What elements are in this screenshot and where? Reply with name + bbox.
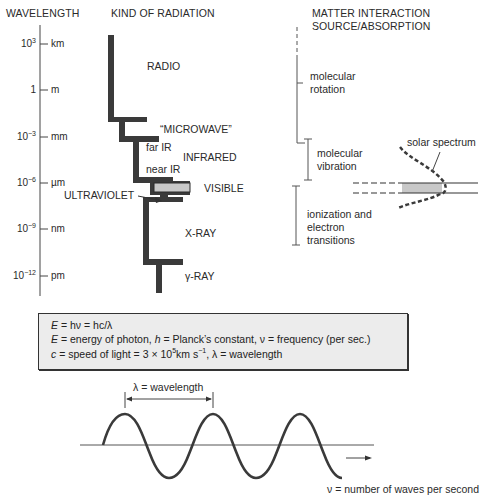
- visible-band: [154, 183, 190, 192]
- label-visible: VISIBLE: [204, 182, 244, 194]
- spectrum-diagram-graphics: [0, 0, 485, 502]
- label-xray: X-RAY: [185, 227, 216, 239]
- label-molecular-vibration-1: molecular: [317, 147, 363, 159]
- tick-unit: pm: [51, 270, 65, 281]
- label-wavelength: λ = wavelength: [133, 381, 203, 393]
- tick-unit: nm: [51, 223, 65, 234]
- label-radio: RADIO: [147, 60, 180, 72]
- label-ionization-2: electron: [307, 221, 344, 233]
- label-far-ir: far IR: [146, 141, 172, 153]
- label-solar-spectrum: solar spectrum: [407, 136, 476, 148]
- label-molecular-rotation-2: rotation: [310, 83, 345, 95]
- tick-label: 1: [0, 84, 36, 95]
- label-molecular-vibration-2: vibration: [317, 160, 357, 172]
- wave-curve: [103, 414, 342, 478]
- label-microwave: “MICROWAVE”: [160, 123, 232, 135]
- equation-line-1: E = hν = hc/λ: [51, 319, 112, 331]
- tick-label: 10−9: [0, 222, 36, 234]
- label-infrared: INFRARED: [183, 151, 237, 163]
- label-molecular-rotation-1: molecular: [310, 70, 356, 82]
- label-ultraviolet: ULTRAVIOLET: [64, 189, 134, 201]
- tick-label: 10−3: [0, 130, 36, 142]
- tick-unit: km: [51, 38, 64, 49]
- tick-unit: µm: [51, 177, 65, 188]
- equation-line-3: c = speed of light = 3 × 105km s−1, λ = …: [51, 347, 282, 360]
- tick-unit: m: [51, 84, 59, 95]
- sine-wave-illustration: [80, 392, 374, 478]
- tick-label: 10−6: [0, 176, 36, 188]
- equation-line-2: E = energy of photon, h = Planck’s const…: [51, 333, 370, 345]
- label-frequency: ν = number of waves per second: [327, 483, 479, 495]
- label-near-ir: near IR: [146, 163, 180, 175]
- equation-box: E = hν = hc/λ E = energy of photon, h = …: [38, 313, 408, 370]
- solar-spectrum-window: [353, 147, 478, 208]
- tick-label: 103: [0, 37, 36, 49]
- tick-label: 10−12: [0, 269, 36, 281]
- axis-ticks: [40, 44, 48, 276]
- label-gamma-ray: γ-RAY: [185, 270, 215, 282]
- label-ionization-3: transitions: [307, 234, 355, 246]
- tick-unit: mm: [51, 131, 68, 142]
- label-ionization-1: ionization and: [307, 208, 372, 220]
